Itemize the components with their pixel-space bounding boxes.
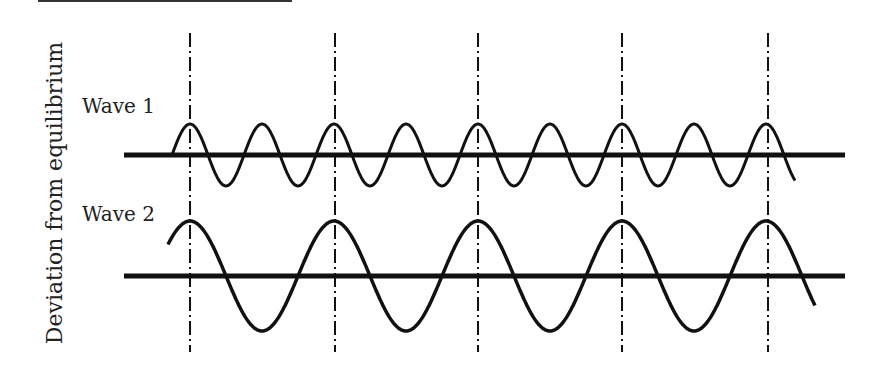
reference-lines	[190, 33, 768, 352]
wave-diagram	[0, 0, 878, 366]
